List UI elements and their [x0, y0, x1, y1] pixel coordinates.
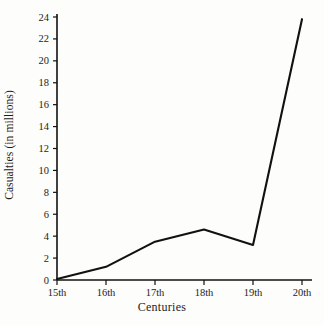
y-tick-label: 6	[44, 209, 49, 220]
y-axis-ticks: 024681012141618202224	[39, 12, 58, 286]
y-tick-label: 0	[44, 275, 49, 286]
x-tick-label: 17th	[146, 287, 165, 298]
x-tick-label: 18th	[195, 287, 214, 298]
x-tick-label: 19th	[244, 287, 263, 298]
x-axis-title-text: Centuries	[138, 300, 187, 314]
x-tick-label: 15th	[48, 287, 67, 298]
x-tick-label: 16th	[97, 287, 116, 298]
x-axis-title: Centuries	[0, 300, 324, 315]
y-tick-label: 24	[39, 12, 50, 23]
y-tick-label: 16	[39, 99, 50, 110]
chart-page: Casualties (in millions) 024681012141618…	[0, 0, 324, 325]
casualties-line-series	[57, 19, 302, 279]
y-tick-label: 10	[39, 165, 50, 176]
y-tick-label: 14	[39, 121, 50, 132]
line-chart-plot: 024681012141618202224 15th16th17th18th19…	[0, 0, 324, 325]
x-tick-label: 20th	[293, 287, 312, 298]
y-tick-label: 12	[39, 143, 50, 154]
y-tick-label: 20	[39, 55, 50, 66]
x-axis-ticks: 15th16th17th18th19th20th	[48, 280, 312, 298]
y-tick-label: 8	[44, 187, 49, 198]
y-tick-label: 22	[39, 33, 50, 44]
y-tick-label: 18	[39, 77, 50, 88]
y-tick-label: 4	[44, 231, 50, 242]
y-tick-label: 2	[44, 253, 49, 264]
